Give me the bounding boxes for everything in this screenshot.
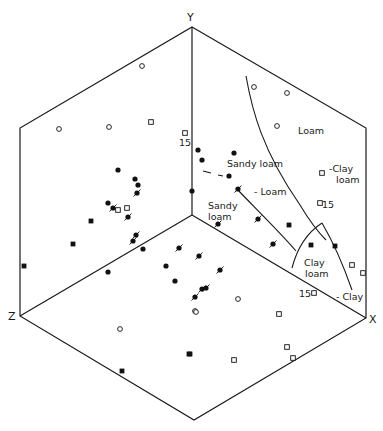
region-label-clay-dash: - Clay bbox=[336, 291, 364, 302]
z-axis-label: Z bbox=[8, 310, 16, 323]
point-open-circle bbox=[57, 127, 62, 132]
point-filled-circle bbox=[135, 182, 140, 187]
point-filled-square bbox=[309, 243, 314, 248]
point-open-square bbox=[183, 131, 188, 136]
annotation-15-bottom: 15 bbox=[299, 288, 311, 299]
point-filled-circle bbox=[105, 200, 110, 205]
point-open-square bbox=[312, 291, 317, 296]
point-filled-circle bbox=[231, 150, 236, 155]
point-open-circle bbox=[118, 327, 123, 332]
region-label-clay-loam-top-sub: loam bbox=[336, 174, 360, 185]
point-filled-square bbox=[71, 242, 76, 247]
point-open-square bbox=[125, 206, 130, 211]
point-open-circle bbox=[194, 310, 199, 315]
point-filled-circle bbox=[115, 167, 120, 172]
point-open-square bbox=[232, 358, 237, 363]
point-filled-circle bbox=[189, 188, 194, 193]
x-axis-label: X bbox=[369, 313, 377, 326]
data-points bbox=[22, 64, 366, 374]
boundary-clay bbox=[322, 223, 352, 290]
region-label-sandy: Sandy bbox=[208, 200, 238, 211]
point-filled-square bbox=[89, 219, 94, 224]
point-open-square bbox=[320, 171, 325, 176]
point-open-square bbox=[277, 312, 282, 317]
point-filled-square bbox=[287, 223, 292, 228]
region-label-clay-dash-top: -Clay bbox=[329, 163, 354, 174]
point-filled-circle bbox=[105, 269, 110, 274]
cube-outline bbox=[20, 27, 366, 420]
region-label-loam-dash: - Loam bbox=[254, 186, 286, 197]
point-open-square bbox=[149, 120, 154, 125]
annotation-15-left: 15 bbox=[179, 137, 191, 148]
point-open-circle bbox=[275, 124, 280, 129]
x-axis-edge bbox=[192, 215, 366, 318]
point-open-circle bbox=[236, 297, 241, 302]
point-open-square bbox=[285, 345, 290, 350]
point-open-circle bbox=[107, 125, 112, 130]
point-open-square bbox=[318, 201, 323, 206]
point-filled-square bbox=[333, 244, 338, 249]
point-open-square bbox=[350, 263, 355, 268]
point-open-circle bbox=[252, 85, 257, 90]
point-filled-circle bbox=[195, 147, 200, 152]
point-open-square bbox=[361, 271, 366, 276]
point-filled-circle bbox=[226, 173, 231, 178]
cube-scatter-chart: Y X Z Loam Sandy loam - Loam Sandy loam … bbox=[0, 0, 383, 431]
region-label-sandy-loam: Sandy loam bbox=[227, 158, 283, 169]
region-label-clay: Clay bbox=[304, 257, 325, 268]
point-open-circle bbox=[285, 91, 290, 96]
point-filled-square bbox=[120, 369, 125, 374]
point-filled-circle bbox=[140, 246, 145, 251]
point-open-square bbox=[291, 356, 296, 361]
point-open-circle bbox=[140, 64, 145, 69]
point-filled-circle bbox=[163, 263, 168, 268]
region-label-sandy-loam-sub: loam bbox=[208, 211, 232, 222]
point-filled-circle bbox=[132, 176, 137, 181]
region-label-clay-loam-sub: loam bbox=[305, 268, 329, 279]
point-filled-circle bbox=[199, 157, 204, 162]
point-filled-square bbox=[188, 352, 193, 357]
annotation-15-right: 15 bbox=[322, 199, 334, 210]
point-filled-circle bbox=[172, 278, 177, 283]
region-label-loam: Loam bbox=[298, 125, 324, 136]
point-filled-square bbox=[22, 264, 27, 269]
y-axis-label: Y bbox=[186, 11, 194, 24]
point-open-square bbox=[116, 208, 121, 213]
